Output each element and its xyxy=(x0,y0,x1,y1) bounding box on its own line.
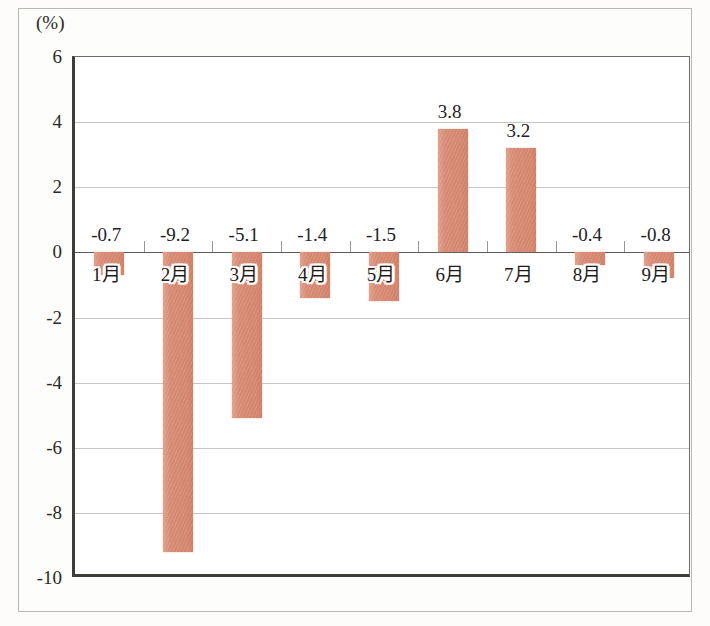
y-tick-label: 2 xyxy=(0,177,62,196)
x-category-label: 3月 xyxy=(229,265,258,284)
x-category-label: 9月 xyxy=(641,265,670,284)
bar-value-label: -1.5 xyxy=(366,225,396,244)
x-tick xyxy=(281,241,282,252)
x-category-label: 7月 xyxy=(504,265,533,284)
x-category-label: 2月 xyxy=(161,265,190,284)
plot-area xyxy=(72,56,690,577)
x-category-label: 1月 xyxy=(92,265,121,284)
chart-figure: (%) 6420-2-4-6-8-10 -0.7-9.2-5.1-1.4-1.5… xyxy=(0,0,710,626)
x-tick xyxy=(350,241,351,252)
bar-value-label: -0.7 xyxy=(91,225,121,244)
y-tick-label: 6 xyxy=(0,47,62,66)
y-tick-label: 0 xyxy=(0,242,62,261)
x-tick xyxy=(556,241,557,252)
y-tick-label: -8 xyxy=(0,502,62,521)
bar-value-label: -0.8 xyxy=(641,225,671,244)
x-tick xyxy=(418,241,419,252)
y-axis-unit-label: (%) xyxy=(36,12,64,34)
x-tick xyxy=(144,241,145,252)
y-tick-label: -10 xyxy=(0,568,62,587)
y-tick-label: -4 xyxy=(0,372,62,391)
bar-value-label: 3.8 xyxy=(438,102,462,121)
bar xyxy=(163,252,193,552)
y-tick-label: -6 xyxy=(0,437,62,456)
bar-value-label: -1.4 xyxy=(297,225,327,244)
bar xyxy=(438,129,468,253)
x-category-label: 4月 xyxy=(298,265,327,284)
bar-value-label: 3.2 xyxy=(506,121,530,140)
x-category-label: 8月 xyxy=(573,265,602,284)
bar-value-label: -5.1 xyxy=(229,225,259,244)
x-category-label: 6月 xyxy=(435,265,464,284)
bar xyxy=(506,148,536,252)
x-category-label: 5月 xyxy=(367,265,396,284)
x-tick xyxy=(487,241,488,252)
y-tick-label: 4 xyxy=(0,112,62,131)
x-tick xyxy=(624,241,625,252)
bar-value-label: -0.4 xyxy=(572,225,602,244)
gridline xyxy=(75,187,689,188)
y-tick-label: -2 xyxy=(0,307,62,326)
x-tick xyxy=(212,241,213,252)
bar-value-label: -9.2 xyxy=(160,225,190,244)
gridline xyxy=(75,122,689,123)
